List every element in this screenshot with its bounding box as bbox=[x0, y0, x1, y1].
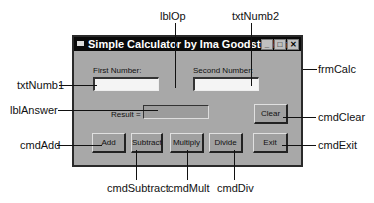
leader-line bbox=[303, 69, 317, 70]
title-bar: Simple Calculator by Ima Goodstudent _ □… bbox=[74, 37, 301, 51]
callout-cmdExit: cmdExit bbox=[318, 139, 357, 151]
leader-line bbox=[175, 23, 176, 88]
first-number-input[interactable] bbox=[93, 77, 159, 91]
leader-line bbox=[187, 150, 188, 180]
second-number-input[interactable] bbox=[193, 77, 259, 91]
divide-button[interactable]: Divide bbox=[209, 133, 243, 153]
leader-line bbox=[59, 85, 97, 86]
leader-line bbox=[251, 23, 252, 86]
leader-line bbox=[57, 145, 102, 146]
minimize-button[interactable]: _ bbox=[261, 39, 273, 50]
answer-display bbox=[143, 105, 209, 119]
maximize-button[interactable]: □ bbox=[274, 39, 286, 50]
second-number-label: Second Number: bbox=[193, 66, 253, 75]
callout-cmdDiv: cmdDiv bbox=[217, 182, 254, 194]
add-button[interactable]: Add bbox=[92, 133, 126, 153]
callout-txtNumb1: txtNumb1 bbox=[17, 79, 64, 91]
clear-button[interactable]: Clear bbox=[254, 104, 288, 124]
leader-line bbox=[282, 145, 316, 146]
leader-line bbox=[283, 117, 316, 118]
callout-cmdSubtract: cmdSubtract bbox=[107, 182, 169, 194]
callout-frmCalc: frmCalc bbox=[318, 63, 356, 75]
close-button[interactable]: ✕ bbox=[287, 39, 299, 50]
callout-cmdAdd: cmdAdd bbox=[20, 139, 60, 151]
leader-line bbox=[136, 150, 137, 180]
app-icon bbox=[77, 41, 84, 46]
callout-lblOp: lblOp bbox=[160, 10, 186, 22]
leader-line bbox=[58, 110, 158, 111]
callout-cmdClear: cmdClear bbox=[318, 111, 365, 123]
window-title: Simple Calculator by Ima Goodstudent bbox=[88, 38, 290, 50]
callout-txtNumb2: txtNumb2 bbox=[232, 10, 279, 22]
callout-cmdMult: cmdMult bbox=[168, 182, 210, 194]
first-number-label: First Number: bbox=[93, 66, 141, 75]
leader-line bbox=[234, 150, 235, 180]
result-label: Result = bbox=[111, 110, 141, 119]
exit-button[interactable]: Exit bbox=[253, 133, 288, 153]
calculator-form: Simple Calculator by Ima Goodstudent _ □… bbox=[72, 35, 303, 167]
callout-lblAnswer: lblAnswer bbox=[10, 104, 58, 116]
